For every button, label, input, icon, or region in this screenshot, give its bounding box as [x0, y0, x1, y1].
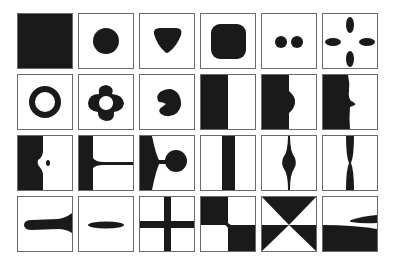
plane-with-neck-and-bulb-icon [140, 136, 194, 190]
half-plane-step-icon [323, 75, 377, 129]
cell-checker-quadrants [200, 196, 256, 252]
cell-ring [17, 74, 73, 130]
vertical-line-with-bulge-icon [262, 136, 316, 190]
cell-split-plane-with-wedge [322, 196, 378, 252]
cell-filled-square [17, 13, 73, 69]
checker-quadrants-icon [201, 197, 255, 251]
ring-icon [18, 75, 72, 129]
vertical-stripe-icon [201, 136, 255, 190]
cell-half-plane-dent-with-dot [17, 135, 73, 191]
half-plane-bump-icon [262, 75, 316, 129]
cell-notched-blob [139, 74, 195, 130]
cell-vertical-stripe [200, 135, 256, 191]
cell-half-plane-step [322, 74, 378, 130]
cell-pinched-vertical-stripe [322, 135, 378, 191]
cell-two-dots [261, 13, 317, 69]
split-plane-with-wedge-icon [323, 197, 377, 251]
half-plane-icon [201, 75, 255, 129]
pinched-vertical-stripe-icon [323, 136, 377, 190]
cell-circle [78, 13, 134, 69]
horizontal-ellipse-icon [79, 197, 133, 251]
cell-plane-with-neck-and-bulb [139, 135, 195, 191]
hourglass-bowtie-icon [262, 197, 316, 251]
cell-rounded-square [200, 13, 256, 69]
cell-half-plane [200, 74, 256, 130]
cell-plane-with-thin-filament [78, 135, 134, 191]
cell-half-plane-bump [261, 74, 317, 130]
cell-four-petals [322, 13, 378, 69]
cell-rounded-triangle [139, 13, 195, 69]
shape-grid [17, 13, 378, 252]
four-petals-icon [323, 14, 377, 68]
lobed-ring-icon [79, 75, 133, 129]
cell-vertical-line-with-bulge [261, 135, 317, 191]
rounded-triangle-icon [140, 14, 194, 68]
cell-hourglass-bowtie [261, 196, 317, 252]
cross-icon [140, 197, 194, 251]
cell-horizontal-ellipse [78, 196, 134, 252]
cell-horizontal-tongue [17, 196, 73, 252]
cell-lobed-ring [78, 74, 134, 130]
plane-with-thin-filament-icon [79, 136, 133, 190]
filled-square-icon [18, 14, 72, 68]
notched-blob-icon [140, 75, 194, 129]
cell-cross [139, 196, 195, 252]
horizontal-tongue-icon [18, 197, 72, 251]
rounded-square-icon [201, 14, 255, 68]
half-plane-dent-with-dot-icon [18, 136, 72, 190]
two-dots-icon [262, 14, 316, 68]
circle-icon [79, 14, 133, 68]
